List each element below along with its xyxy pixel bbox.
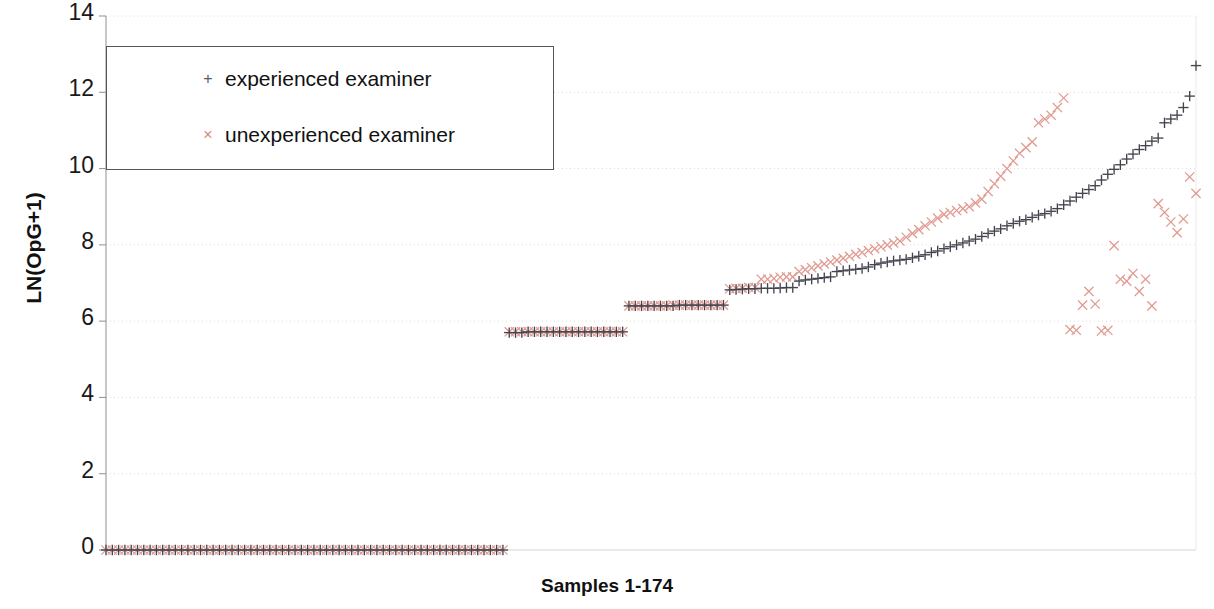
legend: + experienced examiner × unexperienced e… xyxy=(106,46,554,170)
plus-marker-icon: + xyxy=(197,71,219,87)
x-axis-title: Samples 1-174 xyxy=(0,575,1214,597)
y-axis-title: LN(OpG+1) xyxy=(22,148,46,348)
y-tick-label: 0 xyxy=(48,535,94,558)
legend-item-experienced: + experienced examiner xyxy=(197,67,432,91)
legend-label-experienced: experienced examiner xyxy=(225,67,432,91)
y-tick-label: 2 xyxy=(48,459,94,482)
y-tick-label: 14 xyxy=(48,1,94,24)
y-tick-label: 8 xyxy=(48,230,94,253)
scatter-chart: LN(OpG+1) Samples 1-174 14121086420 + ex… xyxy=(0,0,1214,609)
y-tick-label: 6 xyxy=(48,306,94,329)
legend-item-unexperienced: × unexperienced examiner xyxy=(197,123,455,147)
y-tick-label: 10 xyxy=(48,154,94,177)
y-tick-label: 4 xyxy=(48,382,94,405)
cross-marker-icon: × xyxy=(197,127,219,143)
y-tick-label: 12 xyxy=(48,77,94,100)
legend-label-unexperienced: unexperienced examiner xyxy=(225,123,455,147)
